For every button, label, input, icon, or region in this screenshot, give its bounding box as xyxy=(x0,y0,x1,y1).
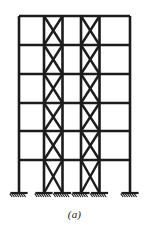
support-3 xyxy=(53,193,70,197)
support-2 xyxy=(35,193,52,197)
support-1 xyxy=(10,193,27,197)
figure-caption: (a) xyxy=(0,208,149,220)
supports-group xyxy=(10,193,138,197)
support-6 xyxy=(121,193,138,197)
braces-group xyxy=(44,16,100,193)
beams-group xyxy=(19,16,130,160)
columns-group xyxy=(19,16,130,193)
support-5 xyxy=(90,193,107,197)
support-4 xyxy=(72,193,89,197)
figure-container: (a) xyxy=(0,0,149,236)
braced-frame-diagram xyxy=(0,0,149,236)
